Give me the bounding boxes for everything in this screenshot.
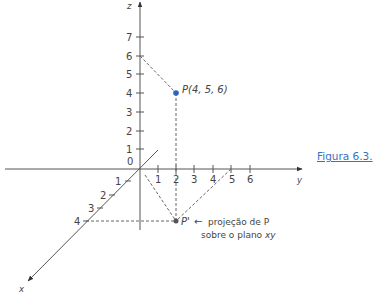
z-tick-label: 1 xyxy=(126,144,132,155)
z-tick-label: 2 xyxy=(126,126,132,137)
z-tick-label: 5 xyxy=(126,69,132,80)
construction-lines xyxy=(86,56,231,221)
z-tick-label: 4 xyxy=(126,88,132,99)
y-axis-label: y xyxy=(296,175,303,185)
projection-label: P' xyxy=(181,216,190,227)
x-tick-label: 2 xyxy=(100,190,106,201)
x-tick-label: 4 xyxy=(74,216,80,227)
y-tick-label: 6 xyxy=(247,174,253,185)
3d-coordinate-figure: z y x 0 1 2 3 4 5 6 7 1 2 3 4 5 6 1 2 3 … xyxy=(0,0,373,293)
y-tick-label: 3 xyxy=(191,174,197,185)
projection-note-italic: xy xyxy=(264,230,276,240)
z-tick-label: 7 xyxy=(126,32,132,43)
z-tick-label: 6 xyxy=(126,51,132,62)
projection-note-prefix: sobre o plano xyxy=(201,230,265,240)
point-p-projection xyxy=(174,219,179,224)
arrow-left-icon: ← xyxy=(194,216,202,227)
projection-note-line1: projeção de P xyxy=(208,217,270,227)
y-tick-label: 1 xyxy=(155,174,161,185)
z-axis-label: z xyxy=(126,1,132,11)
z-tick-label: 3 xyxy=(126,107,132,118)
point-p xyxy=(173,90,179,96)
x-axis-label: x xyxy=(18,284,25,293)
x-tick-label: 1 xyxy=(115,176,121,187)
x-tick-label: 3 xyxy=(88,203,94,214)
y-tick-label: 5 xyxy=(229,174,235,185)
x-axis xyxy=(28,150,158,281)
origin-label: 0 xyxy=(127,156,133,167)
figure-reference-link[interactable]: Figura 6.3. xyxy=(317,150,373,162)
point-p-label: P(4, 5, 6) xyxy=(182,84,228,95)
projection-note-line2: sobre o plano xy xyxy=(201,230,276,240)
